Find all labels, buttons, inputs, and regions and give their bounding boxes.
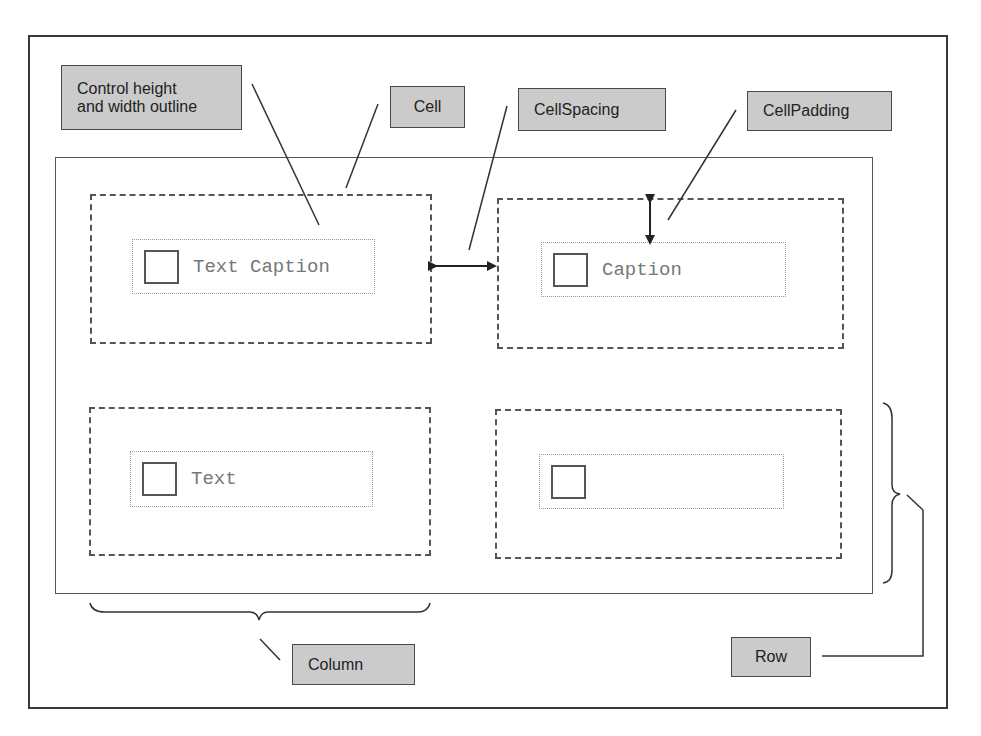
callout-cell-spacing: CellSpacing xyxy=(518,88,666,131)
callout-control-outline: Control height and width outline xyxy=(61,65,242,130)
table-cell-r2c2 xyxy=(495,409,842,559)
checkbox-icon[interactable] xyxy=(144,250,179,284)
checkbox-control[interactable]: Text Caption xyxy=(132,239,375,294)
checkbox-icon[interactable] xyxy=(551,465,586,499)
checkbox-icon[interactable] xyxy=(142,462,177,496)
table-cell-r2c1: Text xyxy=(89,407,431,556)
callout-cell: Cell xyxy=(390,86,465,128)
callout-column: Column xyxy=(292,644,415,685)
control-caption: Text Caption xyxy=(193,256,330,278)
control-caption: Caption xyxy=(602,259,682,281)
control-caption: Text xyxy=(191,468,237,490)
checkbox-control[interactable]: Caption xyxy=(541,242,786,297)
checkbox-icon[interactable] xyxy=(553,253,588,287)
checkbox-control[interactable]: Text xyxy=(130,451,373,507)
callout-cell-padding: CellPadding xyxy=(747,91,892,131)
checkbox-control[interactable] xyxy=(539,454,784,509)
callout-row: Row xyxy=(731,637,811,677)
table-cell-r1c1: Text Caption xyxy=(90,194,432,344)
table-cell-r1c2: Caption xyxy=(497,198,844,349)
